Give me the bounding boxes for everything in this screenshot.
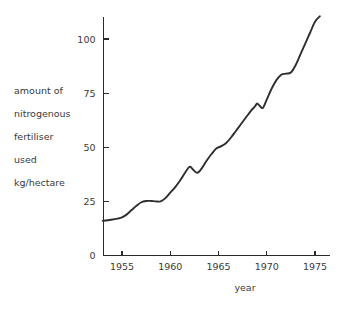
data-series-line bbox=[103, 16, 320, 221]
chart-page: amount of nitrogenous fertiliser used kg… bbox=[0, 0, 356, 312]
y-tick-label: 50 bbox=[83, 142, 95, 153]
line-chart: 0255075100 19551960196519701975 year bbox=[0, 0, 356, 312]
y-tick-label: 0 bbox=[89, 250, 95, 261]
x-tick-group: 19551960196519701975 bbox=[110, 251, 327, 272]
y-tick-label: 100 bbox=[77, 34, 95, 45]
x-axis-title: year bbox=[234, 282, 255, 293]
x-tick-label: 1970 bbox=[255, 261, 279, 272]
x-tick-label: 1975 bbox=[303, 261, 327, 272]
x-tick-label: 1955 bbox=[110, 261, 134, 272]
y-tick-label: 25 bbox=[83, 196, 95, 207]
x-tick-label: 1965 bbox=[206, 261, 230, 272]
y-tick-label: 75 bbox=[83, 88, 95, 99]
x-tick-label: 1960 bbox=[158, 261, 182, 272]
axis-group bbox=[104, 17, 331, 256]
